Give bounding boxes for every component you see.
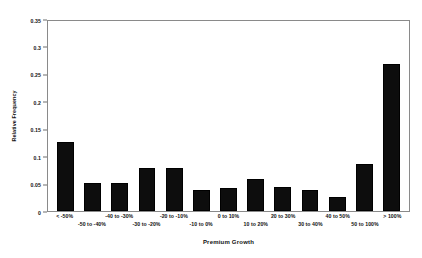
bar-slot (351, 21, 378, 211)
y-axis-tick-label: 0.15 (31, 127, 44, 133)
x-axis-tick-label: 0 to 10% (205, 213, 253, 219)
bar (247, 179, 264, 211)
bar-slot (106, 21, 133, 211)
y-axis-tick: 0.15 (31, 125, 48, 134)
bar-slot (79, 21, 106, 211)
bar (329, 197, 346, 211)
y-axis-tick-label: 0.35 (31, 17, 44, 23)
y-axis-tick-label: 0.3 (33, 44, 43, 50)
x-axis-tick-label: 50 to 100% (341, 221, 389, 227)
bar-slot (133, 21, 160, 211)
bar (111, 183, 128, 211)
bar (302, 190, 319, 211)
x-axis-tick-label: -10 to 0% (177, 221, 225, 227)
y-axis-tick: 0.2 (33, 98, 47, 107)
bar-slot (215, 21, 242, 211)
relative-frequency-bar-chart: Relative Frequency 00.050.10.150.20.250.… (0, 0, 422, 258)
y-axis-tick-label: 0.1 (33, 154, 43, 160)
y-axis-tick: 0.1 (33, 153, 47, 162)
bar (166, 168, 183, 211)
bar (84, 183, 101, 211)
bar-slot (296, 21, 323, 211)
bar (274, 187, 291, 211)
y-axis-tick-label: 0.2 (33, 99, 43, 105)
bar-slot (378, 21, 405, 211)
y-axis: 00.050.10.150.20.250.30.35 (0, 20, 47, 212)
bar (193, 190, 210, 211)
bar-slot (188, 21, 215, 211)
x-axis: < -50%-50 to -40%-40 to -30%-30 to -20%-… (47, 213, 410, 237)
y-axis-tick-label: 0.05 (31, 182, 44, 188)
y-axis-tick: 0.35 (31, 16, 48, 25)
bar-slot (324, 21, 351, 211)
x-axis-tick-label: 40 to 50% (314, 213, 362, 219)
bar-slot (52, 21, 79, 211)
x-axis-tick-label: -30 to -20% (123, 221, 171, 227)
bar (139, 168, 156, 211)
x-axis-tick-label: 10 to 20% (232, 221, 280, 227)
x-axis-tick-label: -40 to -30% (95, 213, 143, 219)
bar (220, 188, 237, 211)
y-axis-tick: 0.05 (31, 180, 48, 189)
x-axis-tick-label: 30 to 40% (286, 221, 334, 227)
bar-slot (269, 21, 296, 211)
x-axis-tick-label: -20 to -10% (150, 213, 198, 219)
x-axis-tick-label: < -50% (41, 213, 89, 219)
bar (383, 64, 400, 211)
y-axis-tick: 0.25 (31, 70, 48, 79)
x-axis-tick-label: > 100% (368, 213, 416, 219)
bar (356, 164, 373, 211)
y-axis-tick: 0.3 (33, 43, 47, 52)
bar-slot (242, 21, 269, 211)
x-axis-title: Premium Growth (47, 239, 410, 245)
y-axis-tick-label: 0.25 (31, 72, 44, 78)
bar (57, 142, 74, 211)
bar-series (48, 21, 409, 211)
bar-slot (161, 21, 188, 211)
x-axis-tick-label: 20 to 30% (259, 213, 307, 219)
x-axis-tick-label: -50 to -40% (68, 221, 116, 227)
plot-area (47, 20, 410, 212)
